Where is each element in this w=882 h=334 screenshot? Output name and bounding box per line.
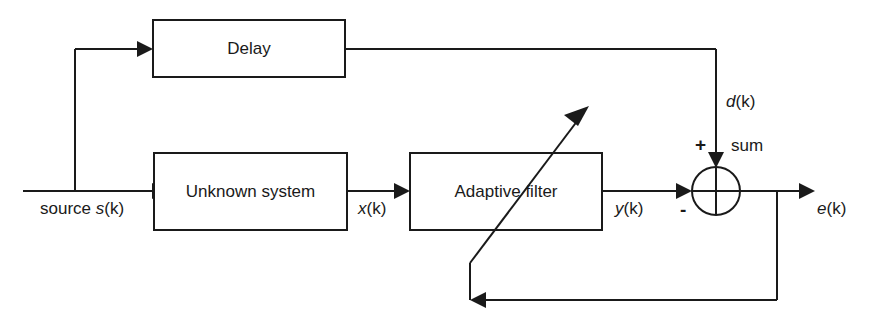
e-signal-label: e(k) bbox=[817, 200, 846, 217]
y-signal-variable: y bbox=[615, 199, 624, 218]
delay-block-label: Delay bbox=[153, 40, 345, 57]
summing-junction-label: sum bbox=[731, 137, 763, 154]
adaptive-filter-block[interactable]: Adaptive filter bbox=[410, 153, 602, 230]
d-signal-argument: (k) bbox=[735, 92, 755, 111]
error-output-arrowhead bbox=[799, 183, 815, 199]
block-diagram-canvas: Delay Unknown system Adaptive filter sou… bbox=[0, 0, 882, 334]
adaptive-filter-block-label: Adaptive filter bbox=[410, 183, 602, 200]
adaptation-arrowhead bbox=[564, 106, 589, 126]
feedback-arrowhead bbox=[470, 292, 486, 308]
delay-block[interactable]: Delay bbox=[153, 20, 345, 77]
x-signal-argument: (k) bbox=[367, 199, 387, 218]
source-signal-argument: (k) bbox=[104, 199, 124, 218]
source-signal-prefix: source bbox=[40, 199, 96, 218]
source-signal-variable: s bbox=[96, 199, 105, 218]
summing-junction-minus-input-arrowhead bbox=[676, 183, 692, 199]
x-signal-label: x(k) bbox=[358, 200, 386, 217]
source-signal-label: source s(k) bbox=[40, 200, 124, 217]
summing-junction-plus-input-arrowhead bbox=[708, 152, 724, 168]
d-signal-label: d(k) bbox=[726, 93, 755, 110]
e-signal-argument: (k) bbox=[826, 199, 846, 218]
adaptive-filter-input-arrowhead bbox=[394, 183, 410, 199]
unknown-system-block[interactable]: Unknown system bbox=[154, 153, 347, 230]
y-signal-label: y(k) bbox=[615, 200, 643, 217]
x-signal-variable: x bbox=[358, 199, 367, 218]
summing-junction-plus-sign: + bbox=[695, 135, 706, 154]
y-signal-argument: (k) bbox=[624, 199, 644, 218]
unknown-system-block-label: Unknown system bbox=[154, 183, 347, 200]
delay-input-arrowhead bbox=[137, 41, 153, 57]
summing-junction-minus-sign: - bbox=[680, 200, 686, 219]
